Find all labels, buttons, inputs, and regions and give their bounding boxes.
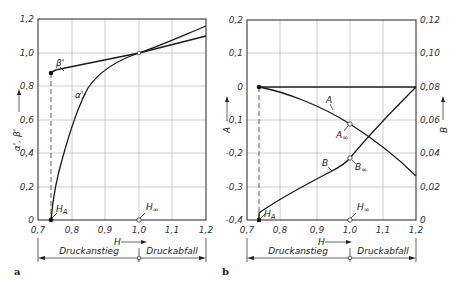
region-fall-label-b: Druckabfall: [357, 246, 409, 256]
svg-text:1,1: 1,1: [376, 225, 390, 235]
grid-a: [38, 19, 206, 220]
svg-text:-0,1: -0,1: [225, 115, 243, 125]
h-inf-point-b: [348, 218, 352, 222]
svg-text:-0,4: -0,4: [225, 215, 243, 225]
svg-text:0,04: 0,04: [420, 148, 440, 158]
svg-text:1,2: 1,2: [20, 14, 35, 24]
b-curve-label: B: [322, 158, 328, 168]
h-inf-point: [137, 218, 141, 222]
a-curve-label: A: [325, 95, 332, 105]
svg-text:0,7: 0,7: [31, 225, 46, 235]
svg-text:0,8: 0,8: [273, 225, 288, 235]
grid-b: [247, 20, 416, 220]
h-inf-label-b: H∞: [357, 202, 370, 214]
region-rise-label-b: Druckanstieg: [268, 246, 328, 256]
y-axis-label-b-right: B: [439, 127, 449, 133]
h-a-point: [49, 218, 54, 223]
svg-text:0,1: 0,1: [229, 48, 243, 58]
svg-text:1,2: 1,2: [409, 225, 424, 235]
y-ticks-a: 0 0,2 0,4 0,6 0,8 1,0 1,2: [20, 14, 35, 225]
chart-b: A A∞ B B∞ HA H∞ -0,4 -0,3 -0,2 -0,1 0 0,…: [222, 15, 449, 277]
y-axis-label-a: α', β': [12, 129, 22, 151]
svg-text:0,12: 0,12: [420, 15, 440, 25]
svg-text:0,02: 0,02: [420, 182, 440, 192]
svg-text:1,0: 1,0: [132, 225, 147, 235]
svg-text:0,9: 0,9: [98, 225, 113, 235]
svg-text:0,06: 0,06: [420, 115, 440, 125]
b-curve: [259, 87, 416, 220]
y-axis-label-b-left: A: [222, 127, 232, 134]
b-inf-label: B∞: [355, 162, 367, 174]
beta-start-point: [49, 71, 54, 76]
a-inf-point: [348, 122, 352, 126]
chart-a: β' α' HA H∞ 0 0,2 0,4 0,6 0,8 1,0 1,2 0,…: [12, 14, 213, 277]
svg-text:0,8: 0,8: [65, 225, 80, 235]
svg-text:0,8: 0,8: [20, 81, 35, 91]
beta-curve: [51, 36, 206, 73]
region-rise-label-a: Druckanstieg: [59, 246, 119, 256]
svg-text:0,7: 0,7: [240, 225, 255, 235]
svg-text:0,9: 0,9: [310, 225, 325, 235]
svg-text:1,2: 1,2: [199, 225, 214, 235]
panel-label-a: a: [14, 266, 21, 277]
svg-text:0,2: 0,2: [20, 182, 35, 192]
svg-text:1,0: 1,0: [343, 225, 358, 235]
intersection-point: [137, 51, 141, 55]
svg-text:1,0: 1,0: [20, 48, 35, 58]
x-ticks-a: 0,7 0,8 0,9 1,0 1,1 1,2: [31, 225, 214, 235]
h-a-label-a: HA: [56, 204, 68, 216]
a-start-point: [257, 85, 262, 90]
x-ticks-b: 0,7 0,8 0,9 1,0 1,1 1,2: [240, 225, 424, 235]
beta-label: β': [55, 58, 64, 68]
svg-text:-0,2: -0,2: [225, 148, 243, 158]
y-ticks-b-left: -0,4 -0,3 -0,2 -0,1 0 0,1 0,2: [225, 15, 243, 225]
svg-text:0,2: 0,2: [229, 15, 244, 25]
plot-frame-a: [38, 19, 206, 220]
region-fall-label-a: Druckabfall: [146, 246, 198, 256]
h-inf-label-a: H∞: [146, 202, 159, 214]
y-ticks-b-right: 0 0,02 0,04 0,06 0,08 0,10 0,12: [420, 15, 440, 225]
svg-text:-0,3: -0,3: [225, 182, 243, 192]
svg-text:0: 0: [420, 215, 426, 225]
panel-label-b: b: [222, 266, 229, 277]
h-a-label-b: HA: [264, 209, 276, 221]
svg-text:0: 0: [237, 82, 243, 92]
svg-text:0,08: 0,08: [420, 82, 440, 92]
svg-text:0,10: 0,10: [420, 48, 440, 58]
a-inf-label: A∞: [335, 130, 348, 142]
svg-text:1,1: 1,1: [165, 225, 179, 235]
b-inf-point: [348, 156, 352, 160]
figure: β' α' HA H∞ 0 0,2 0,4 0,6 0,8 1,0 1,2 0,…: [0, 0, 461, 290]
svg-text:0: 0: [28, 215, 34, 225]
svg-text:0,6: 0,6: [20, 115, 35, 125]
